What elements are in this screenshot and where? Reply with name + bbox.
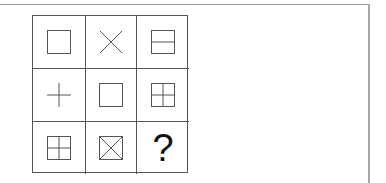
square-icon (99, 83, 123, 107)
square-plus-icon (47, 136, 71, 160)
plus-icon (47, 83, 71, 107)
square-horizontal-line-icon (151, 30, 175, 54)
frame-top-border (0, 4, 369, 5)
cell-1-1 (33, 16, 86, 69)
cell-2-2 (86, 69, 137, 122)
square-plus-icon (151, 83, 175, 107)
frame-right-border (368, 4, 370, 183)
question-mark: ? (152, 129, 173, 167)
cell-3-2 (86, 122, 137, 174)
cell-2-1 (33, 69, 86, 122)
puzzle-grid: ? (32, 15, 188, 173)
x-cross-icon (99, 30, 123, 54)
cell-1-2 (86, 16, 137, 69)
cell-2-3 (137, 69, 189, 122)
square-x-icon (99, 136, 123, 160)
cell-3-3: ? (137, 122, 189, 174)
cell-3-1 (33, 122, 86, 174)
cell-1-3 (137, 16, 189, 69)
square-icon (47, 30, 71, 54)
